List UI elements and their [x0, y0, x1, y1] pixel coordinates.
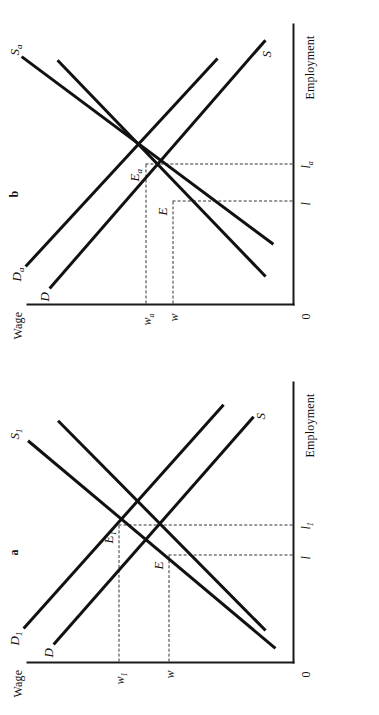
panel-a-origin-label: 0: [298, 671, 313, 677]
panel-b-ytick-w: w: [166, 313, 181, 321]
panel-b-curve-demand-shifted: [24, 57, 218, 267]
figure-page: Wage Employment 0 b D: [0, 0, 379, 715]
panel-a-label-equilibrium-new: E1: [100, 531, 118, 543]
panel-b-letter: b: [6, 190, 21, 197]
panel-b-label-demand: D: [36, 292, 52, 301]
panel-b-canvas: Wage Employment 0 b D: [0, 0, 379, 357]
panel-a-x-axis: [292, 381, 294, 663]
panel-b-label-supply-shifted: Sa: [6, 44, 24, 55]
panel-a-ytick-w1: w1: [112, 672, 128, 684]
panel-a-guide-h-l: [168, 555, 169, 661]
panel-b-y-axis-label: Wage: [10, 311, 25, 339]
panel-b: Wage Employment 0 b D: [0, 0, 379, 357]
panel-a-xtick-l1: l1: [298, 522, 314, 529]
panel-b-x-axis-label: Employment: [302, 35, 317, 99]
panel-a: Wage Employment 0 a D: [0, 358, 379, 715]
panel-a-label-equilibrium-initial: E: [150, 561, 166, 569]
panel-a-guide-v-w: [168, 554, 292, 555]
panel-b-label-demand-shifted: Da: [8, 267, 26, 281]
panel-b-label-supply: S: [258, 51, 274, 58]
panel-b-guide-h-la: [145, 164, 146, 303]
panel-b-xtick-la: la: [298, 161, 314, 168]
panel-b-y-axis: [26, 303, 294, 305]
panel-a-label-supply-shifted: S1: [6, 428, 24, 439]
panel-b-guide-h-l: [172, 201, 173, 303]
panel-a-guide-h-l1: [118, 525, 119, 661]
panel-a-curve-demand-shifted: [22, 403, 224, 629]
panel-a-letter: a: [6, 549, 21, 555]
panel-a-guide-v-w1: [118, 524, 292, 525]
panel-a-ytick-w: w: [162, 670, 177, 678]
panel-b-origin-label: 0: [298, 313, 313, 319]
panel-b-label-equilibrium-initial: E: [154, 207, 170, 215]
panel-a-canvas: Wage Employment 0 a D: [0, 358, 379, 715]
panel-a-label-demand: D: [40, 648, 56, 657]
panel-a-y-axis: [26, 661, 294, 663]
panel-a-curve-supply-shifted: [27, 439, 276, 649]
panel-a-y-axis-label: Wage: [10, 669, 25, 697]
panel-b-curve-supply-shifted: [20, 55, 274, 245]
panel-a-x-axis-label: Employment: [302, 393, 317, 457]
panel-b-ytick-wa: wa: [139, 313, 155, 325]
panel-a-curve-demand: [52, 415, 254, 645]
panel-a-label-demand-shifted: D1: [6, 631, 24, 645]
panel-b-xtick-l: l: [298, 202, 313, 205]
panel-b-label-equilibrium-new: Ea: [126, 169, 144, 181]
panel-a-label-supply: S: [252, 413, 268, 420]
panel-a-xtick-l: l: [298, 556, 313, 559]
